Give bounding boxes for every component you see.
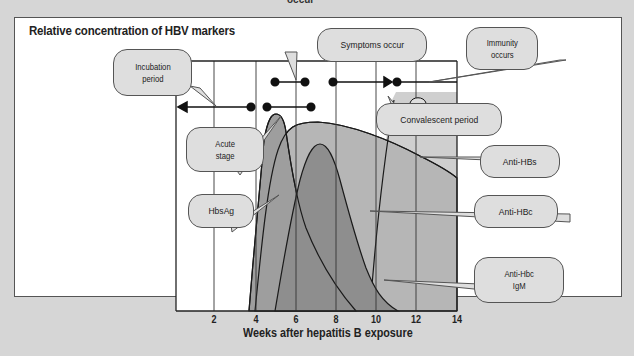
x-tick-12: 12 <box>411 314 421 325</box>
callout-incubation-period: Incubationperiod <box>113 49 192 96</box>
callout-anti-hbs: Anti-HBs <box>480 145 560 178</box>
x-tick-14: 14 <box>452 314 462 325</box>
x-tick-2: 2 <box>211 314 216 325</box>
callout-immunity-occurs: Immunityoccurs <box>466 27 538 70</box>
callout-acute-stage: Acutestage <box>186 127 264 172</box>
callout-anti-hbc-igm: Anti-HbcIgM <box>474 257 564 303</box>
x-tick-6: 6 <box>293 314 298 325</box>
x-tick-10: 10 <box>371 314 381 325</box>
x-tick-8: 8 <box>333 314 338 325</box>
x-tick-4: 4 <box>253 314 258 325</box>
callout-hbsag: HbsAg <box>188 194 254 228</box>
x-axis-label: Weeks after hepatitis B exposure <box>243 326 413 340</box>
callout-anti-hbc: Anti-HBc <box>474 195 558 228</box>
callout-symptoms-occur: Symptoms occur <box>317 28 427 62</box>
callout-convalescent-period: Convalescent period <box>376 103 502 136</box>
